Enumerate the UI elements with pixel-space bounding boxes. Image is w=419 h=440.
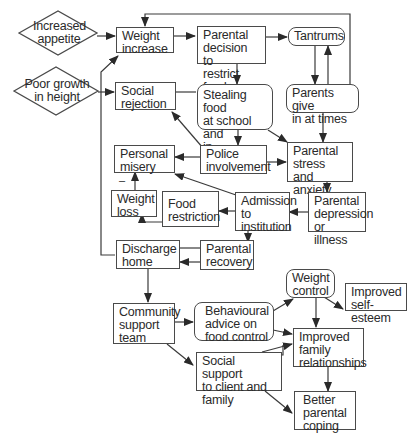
edge-social-coping	[265, 391, 292, 413]
node-weight-loss: Weight loss	[111, 190, 157, 217]
edge-behavioural-family	[273, 330, 292, 334]
node-tantrums: Tantrums	[288, 27, 345, 46]
node-police-involvement: Police involvement	[200, 145, 267, 174]
node-discharge-home: Discharge home	[116, 240, 180, 269]
edge-social-family	[262, 344, 292, 352]
edge-behavioural-weightcontrol	[273, 299, 293, 311]
node-weight-increase: Weight increase	[116, 27, 174, 53]
node-parental-decision: Parental decision to restrict food	[197, 26, 266, 64]
edge-weightcontrol-selfesteem	[324, 297, 343, 309]
node-parents-give-in: Parents give in at times	[286, 84, 359, 113]
node-community-support: Community support team	[113, 303, 175, 344]
node-parental-stress: Parental stress and anxiety	[287, 142, 353, 182]
node-behavioural-advice: Behavioural advice on food control	[194, 302, 274, 341]
node-social-rejection: Social rejection	[115, 82, 176, 110]
node-increased-appetite-label: Increased appetite	[33, 19, 86, 46]
node-parental-depression: Parental depression or illness	[308, 192, 366, 232]
node-admission: Admission to institution	[235, 192, 290, 231]
node-food-restriction: Food restriction	[162, 191, 219, 227]
node-personal-misery: Personal misery	[114, 145, 175, 173]
node-improved-self-esteem: Improved self-esteem	[345, 283, 407, 311]
edge-stealing-stress	[268, 130, 287, 142]
node-parental-recovery: Parental recovery	[200, 240, 254, 270]
minus-sign-annotation: –	[119, 174, 125, 186]
node-social-support: Social support to client and family	[196, 352, 282, 391]
edge-community-social	[167, 344, 193, 365]
node-weight-control: Weight control	[286, 269, 335, 298]
node-poor-growth: Poor growth in height	[22, 78, 92, 104]
node-better-coping: Better parental coping	[294, 391, 356, 430]
node-poor-growth-label: Poor growth in height	[24, 77, 89, 104]
node-stealing-food: Stealing food at school and in community	[197, 84, 273, 130]
node-increased-appetite: Increased appetite	[33, 20, 85, 46]
node-improved-family: Improved family relationships	[293, 328, 364, 367]
